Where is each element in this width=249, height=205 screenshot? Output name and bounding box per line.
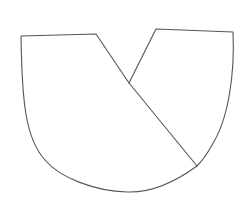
- left-sector-shape: [21, 34, 197, 192]
- diagram-canvas: [0, 0, 249, 205]
- diagram-svg: [0, 0, 249, 205]
- right-sector-shape: [129, 29, 233, 166]
